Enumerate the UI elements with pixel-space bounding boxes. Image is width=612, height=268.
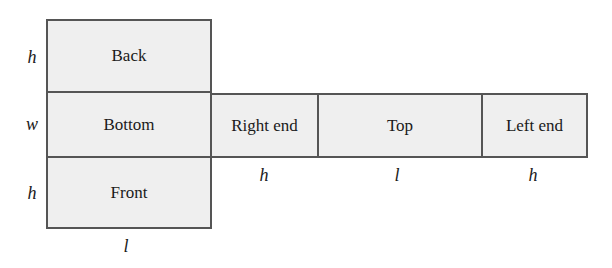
face-front: Front <box>46 156 212 229</box>
face-label: Bottom <box>103 115 154 135</box>
face-bottom: Bottom <box>46 91 212 158</box>
face-label: Front <box>111 183 148 203</box>
face-right-end: Right end <box>210 93 319 158</box>
dimension-label-left-back: h <box>28 48 37 66</box>
dimension-label-left-bottom: w <box>26 115 38 133</box>
face-label: Left end <box>506 116 563 136</box>
face-back: Back <box>46 19 212 93</box>
face-label: Right end <box>231 116 298 136</box>
face-left-end: Left end <box>481 93 588 158</box>
dimension-label-below-left-end: h <box>529 166 538 184</box>
dimension-label-below-top: l <box>394 166 399 184</box>
face-label: Top <box>387 116 413 136</box>
face-label: Back <box>112 46 147 66</box>
face-top: Top <box>317 93 483 158</box>
dimension-label-below-right-end: h <box>260 166 269 184</box>
dimension-label-left-front: h <box>28 184 37 202</box>
dimension-label-below-column: l <box>123 237 128 255</box>
